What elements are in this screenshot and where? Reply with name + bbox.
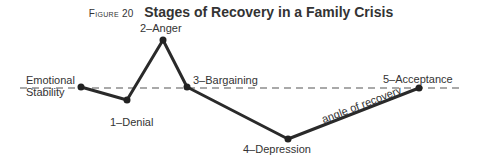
- stage-denial-label: 1–Denial: [110, 116, 153, 128]
- point-acceptance: [416, 85, 423, 92]
- point-denial: [124, 97, 131, 104]
- stage-anger-label: 2–Anger: [140, 22, 182, 34]
- baseline-label-line2: Stability: [26, 86, 65, 98]
- baseline-label-line1: Emotional: [26, 74, 75, 86]
- stage-acceptance-label: 5–Acceptance: [383, 73, 453, 85]
- point-bargaining: [184, 84, 191, 91]
- point-depression: [285, 136, 292, 143]
- point-start: [78, 84, 85, 91]
- point-anger: [160, 37, 167, 44]
- stage-bargaining-label: 3–Bargaining: [193, 74, 258, 86]
- stage-depression-label: 4–Depression: [243, 143, 311, 155]
